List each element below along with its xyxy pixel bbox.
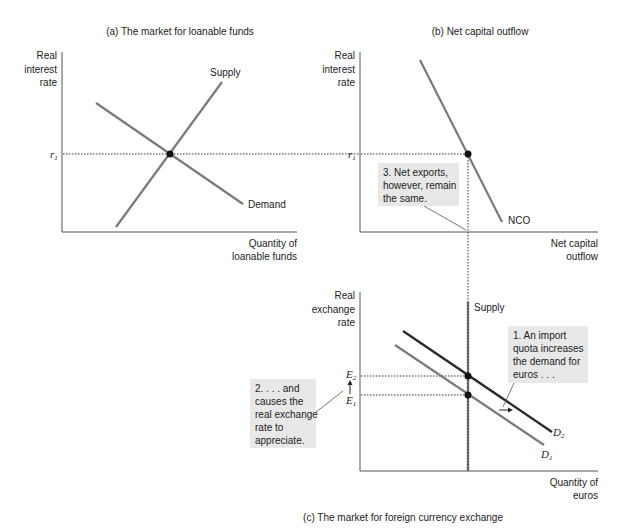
callout-2-line-3: real exchange [255, 409, 318, 420]
panel-c-ylabel-1: Real [334, 290, 355, 301]
d2-label: D2 [552, 426, 565, 440]
panel-c: Real exchange rate Quantity of euros (c)… [250, 290, 598, 523]
panel-b: (b) Net capital outflow Real interest ra… [322, 26, 599, 303]
callout-1-line-2: quota increases [513, 343, 584, 354]
callout-1-line-1: 1. An import [513, 330, 567, 341]
callout-2-line-4: rate to [255, 422, 284, 433]
panel-a: (a) The market for loanable funds Real i… [24, 26, 359, 262]
callout-1-line-4: euros . . . [513, 369, 555, 380]
callout-3-pointer [424, 206, 466, 230]
panel-a-xlabel-2: loanable funds [232, 251, 297, 262]
e1-label: E1 [345, 394, 356, 408]
equilibrium-point-e1 [465, 392, 472, 399]
panel-a-r1-label: r1 [50, 148, 58, 162]
d1-label: D1 [540, 448, 552, 462]
panel-c-ylabel-3: rate [338, 317, 356, 328]
callout-2-line-2: causes the [255, 396, 304, 407]
panel-c-supply-label: Supply [474, 302, 505, 313]
e2-label: E2 [345, 368, 357, 382]
equilibrium-point-a [167, 151, 174, 158]
callout-3-line-2: however, remain [383, 180, 456, 191]
panel-a-ylabel-3: rate [40, 77, 58, 88]
nco-label: NCO [508, 215, 530, 226]
panel-b-xlabel-1: Net capital [551, 238, 598, 249]
panel-c-xlabel-1: Quantity of [550, 477, 599, 488]
demand-label: Demand [248, 199, 286, 210]
panel-a-ylabel-2: interest [24, 64, 57, 75]
panel-b-ylabel-3: rate [338, 77, 356, 88]
panel-b-ylabel-1: Real [334, 50, 355, 61]
callout-2-pointer [316, 391, 343, 412]
panel-a-ylabel-1: Real [36, 50, 57, 61]
panel-b-ylabel-2: interest [322, 64, 355, 75]
supply-label: Supply [210, 67, 241, 78]
panel-b-r1-label: r1 [348, 148, 356, 162]
panel-c-title: (c) The market for foreign currency exch… [303, 512, 503, 523]
panel-c-ylabel-2: exchange [312, 304, 356, 315]
right-arrow-icon [508, 408, 513, 413]
figure: (a) The market for loanable funds Real i… [0, 0, 627, 530]
callout-3-line-3: the same. [383, 193, 427, 204]
panel-b-xlabel-2: outflow [566, 251, 598, 262]
panel-a-title: (a) The market for loanable funds [106, 26, 254, 37]
callout-1-line-3: the demand for [513, 356, 581, 367]
panel-c-xlabel-2: euros [573, 490, 598, 501]
equilibrium-point-b [465, 151, 472, 158]
callout-2-line-5: appreciate. [255, 435, 304, 446]
equilibrium-point-e2 [465, 373, 472, 380]
callout-3-line-1: 3. Net exports, [383, 167, 448, 178]
panel-a-xlabel-1: Quantity of [249, 238, 298, 249]
panel-b-title: (b) Net capital outflow [432, 26, 529, 37]
callout-2-line-1: 2. . . . and [255, 383, 299, 394]
